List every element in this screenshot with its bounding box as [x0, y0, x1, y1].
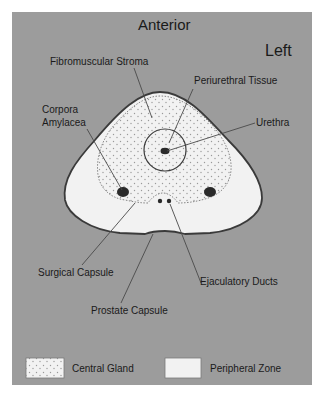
label-fibromuscular-stroma: Fibromuscular Stroma [50, 56, 148, 68]
legend-swatch-central-gland [26, 358, 64, 378]
label-urethra: Urethra [256, 117, 289, 129]
legend-label-peripheral-zone: Peripheral Zone [210, 363, 281, 375]
label-corpora-line1: Corpora [42, 104, 78, 116]
corpora-amylacea-left [117, 187, 129, 197]
ejaculatory-duct-right [167, 199, 171, 203]
legend-swatch-peripheral-zone [165, 358, 201, 378]
anterior-label: Anterior [138, 16, 191, 33]
label-periurethral-tissue: Periurethral Tissue [194, 75, 277, 87]
leader-prostate-capsule [121, 234, 153, 303]
corpora-amylacea-right [204, 187, 216, 197]
legend-label-central-gland: Central Gland [72, 363, 134, 375]
label-corpora-line2: Amylacea [42, 117, 86, 129]
label-surgical-capsule: Surgical Capsule [38, 267, 114, 279]
label-ejaculatory-ducts: Ejaculatory Ducts [200, 276, 278, 288]
left-label: Left [265, 42, 292, 60]
ejaculatory-duct-left [158, 199, 162, 203]
label-prostate-capsule: Prostate Capsule [91, 305, 168, 317]
